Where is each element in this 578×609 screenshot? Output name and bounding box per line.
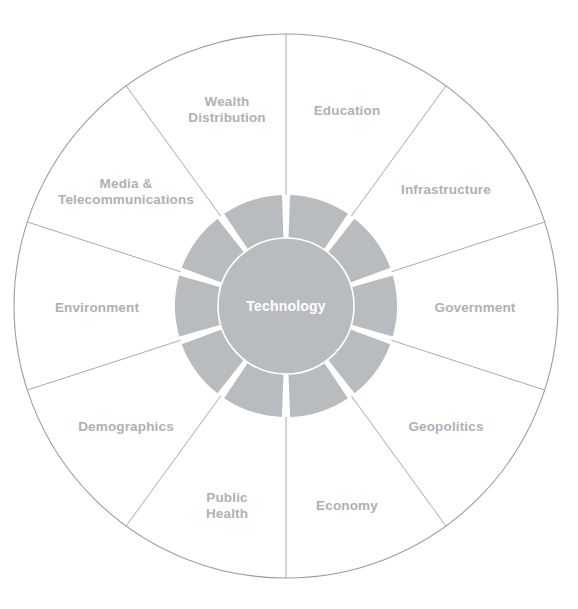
wheel-diagram: EducationInfrastructureGovernmentGeopoli… [0,0,578,609]
hub-label: Technology [246,298,326,314]
